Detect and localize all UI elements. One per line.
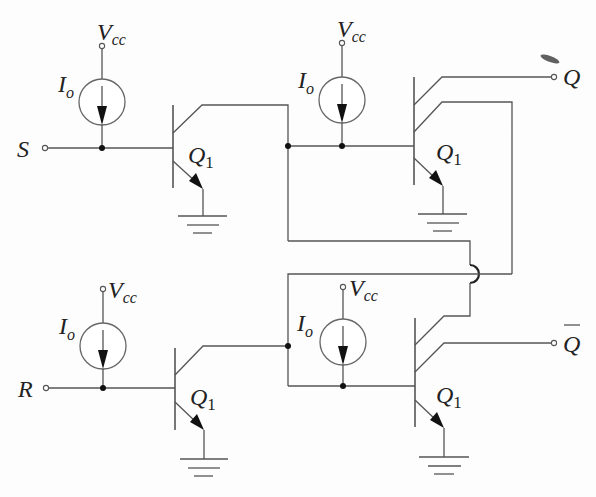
cell-top-left: Vcc Io S Q1: [17, 19, 288, 241]
io-label: Io: [297, 67, 314, 97]
junction-dot: [339, 143, 345, 149]
ground-icon: [418, 214, 467, 231]
vcc-label: Vcc: [349, 275, 378, 304]
ground-icon: [419, 457, 469, 474]
junction-dot: [340, 383, 346, 389]
collector-wire-qbar: [415, 343, 551, 372]
vcc-label: Vcc: [97, 19, 126, 48]
transistor-label: Q1: [436, 139, 462, 169]
io-label: Io: [57, 71, 74, 101]
collector-wire: [175, 346, 288, 375]
emitter-arrow-icon: [430, 412, 444, 428]
cell-bottom-right: Vcc Io Q Q1: [288, 275, 580, 474]
collector-wire: [173, 105, 288, 241]
output-label-qbar: Q: [563, 331, 580, 357]
junction-dot: [100, 385, 106, 391]
transistor-label: Q1: [190, 384, 216, 414]
ink-smudge: [540, 53, 561, 65]
collector-wire-cross: [414, 102, 512, 274]
input-terminal-s[interactable]: [42, 145, 47, 150]
vcc-terminal: [340, 284, 345, 289]
circuit-diagram: Vcc Io S Q1 Vcc Io: [0, 0, 596, 497]
vcc-label: Vcc: [337, 16, 366, 45]
cross-wire-b: [288, 274, 512, 386]
ground-icon: [180, 459, 228, 476]
io-label: Io: [58, 313, 75, 343]
ground-icon: [178, 216, 227, 233]
junction-dot: [285, 143, 291, 149]
transistor-label: Q1: [436, 382, 462, 412]
cross-wire-a: [288, 241, 470, 265]
input-terminal-r[interactable]: [43, 385, 48, 390]
junction-dot: [99, 145, 105, 151]
output-terminal-qbar[interactable]: [551, 340, 556, 345]
vcc-terminal: [100, 286, 105, 291]
emitter-arrow-icon: [429, 170, 443, 186]
output-label-q: Q: [563, 64, 580, 90]
emitter-arrow-icon: [190, 414, 204, 430]
input-label-r: R: [17, 376, 33, 402]
vcc-label: Vcc: [108, 277, 137, 306]
cell-top-right: Vcc Io Q Q1: [285, 16, 580, 274]
emitter-arrow-icon: [189, 173, 203, 189]
input-label-s: S: [17, 136, 29, 162]
transistor-label: Q1: [188, 142, 214, 172]
junction-dot: [285, 343, 291, 349]
output-terminal-q[interactable]: [551, 74, 556, 79]
io-label: Io: [296, 310, 313, 340]
cell-bottom-left: Vcc Io R Q1: [17, 277, 291, 476]
cross-wire-a2: [415, 283, 470, 345]
collector-wire-q: [414, 77, 551, 105]
cross-coupling: [288, 241, 512, 386]
